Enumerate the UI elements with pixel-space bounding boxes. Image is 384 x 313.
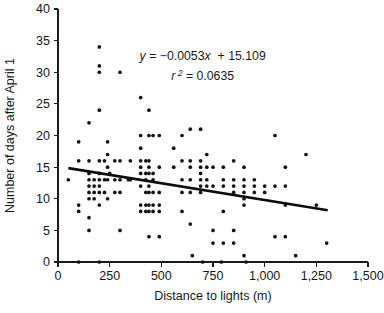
data-point [139,134,143,138]
data-point [151,210,155,214]
chart-canvas: 0510152025303540 02505007501,0001,2501,5… [0,0,384,313]
data-point [190,254,194,258]
data-point [151,203,155,207]
data-point [147,165,151,169]
x-axis: 02505007501,0001,2501,500 [55,262,384,283]
x-axis-tick-label: 1,500 [352,269,383,283]
data-point [180,159,184,163]
x-axis-tick-label: 750 [203,269,224,283]
data-point [205,153,209,157]
data-point [188,165,192,169]
data-point [211,165,215,169]
data-point [97,191,101,195]
data-point [199,178,203,182]
y-axis-tick-label: 5 [43,224,50,238]
data-point [199,184,203,188]
data-point [180,210,184,214]
y-axis-title: Number of days after April 1 [3,58,17,213]
data-point [294,254,298,258]
data-point [180,178,184,182]
data-point [139,210,143,214]
data-point [199,127,203,131]
data-point [263,191,267,195]
data-point [201,260,205,264]
data-point [273,184,277,188]
data-point [106,153,110,157]
scatter-chart-figure: 0510152025303540 02505007501,0001,2501,5… [0,0,384,313]
data-point [219,260,223,264]
y-axis-tick-label: 25 [36,97,50,111]
data-point [77,159,81,163]
y-axis-tick-label: 15 [36,161,50,175]
data-point [205,178,209,182]
data-point [118,229,122,233]
data-point [118,178,122,182]
data-point [283,184,287,188]
data-point [221,210,225,214]
data-point [97,64,101,68]
trendline-layer [68,168,327,210]
data-point [252,178,256,182]
data-point [106,178,110,182]
data-point [199,172,203,176]
data-point [242,165,246,169]
data-point [211,184,215,188]
data-point [221,165,225,169]
data-point [66,178,70,182]
data-point [87,191,91,195]
y-axis-tick-label: 30 [36,66,50,80]
data-point [242,184,246,188]
data-point [232,178,236,182]
data-point [244,260,248,264]
data-point [77,140,81,144]
data-point [147,191,151,195]
data-point [97,178,101,182]
data-point [157,235,161,239]
y-axis-tick-label: 10 [36,192,50,206]
data-point [199,165,203,169]
data-point [77,203,81,207]
data-point [147,184,151,188]
data-point [151,134,155,138]
data-point [87,159,91,163]
y-axis-tick-label: 40 [36,2,50,16]
data-point [232,241,236,245]
data-point [283,165,287,169]
data-point [242,191,246,195]
data-point [147,235,151,239]
data-point [97,260,101,264]
data-point [157,191,161,195]
data-point [180,134,184,138]
data-point [77,260,81,264]
data-point [242,203,246,207]
x-axis-tick-label: 250 [99,269,120,283]
data-point [242,178,246,182]
data-point [211,241,215,245]
data-point [242,254,246,258]
data-point [157,203,161,207]
data-point [118,159,122,163]
data-point [139,172,143,176]
data-point [199,191,203,195]
data-point [97,203,101,207]
data-point [211,229,215,233]
data-point [87,178,91,182]
data-point [97,70,101,74]
data-point [172,146,176,150]
data-point [103,159,107,163]
data-point [147,210,151,214]
x-axis-title: Distance to lights (m) [154,289,271,303]
data-point [106,165,110,169]
data-point [188,159,192,163]
y-axis: 0510152025303540 [36,2,58,269]
data-point [139,96,143,100]
regression-equation-label: y = −0.0053x + 15.109 [139,49,266,63]
data-point [87,184,91,188]
data-point [118,191,122,195]
data-point [92,184,96,188]
data-point [232,184,236,188]
data-point [97,45,101,49]
data-point [273,235,277,239]
data-point [113,191,117,195]
data-point [118,70,122,74]
